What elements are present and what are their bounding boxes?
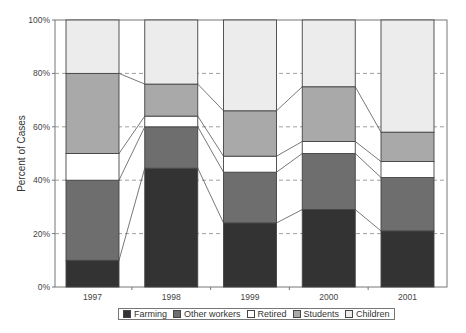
bar-segment-students [381, 132, 434, 161]
y-axis-title: Percent of Cases [16, 115, 27, 192]
legend-swatch-icon [293, 310, 301, 318]
x-tick-label: 1999 [241, 292, 260, 302]
legend-label: Retired [258, 309, 287, 319]
bar-segment-retired [224, 156, 277, 172]
bar-segment-farming [145, 168, 198, 287]
x-tick-label: 2001 [398, 292, 417, 302]
legend-swatch-icon [123, 310, 131, 318]
bar-segment-children [224, 20, 277, 111]
bar-segment-retired [66, 154, 119, 181]
x-tick-label: 1998 [162, 292, 181, 302]
y-tick-label: 0% [38, 282, 51, 292]
legend-item-farming: Farming [123, 309, 167, 319]
bar-segment-other-workers [66, 180, 119, 260]
bar-segment-retired [381, 162, 434, 178]
bar-segment-students [66, 73, 119, 153]
bar-1998 [145, 20, 198, 287]
legend-label: Students [304, 309, 340, 319]
legend-swatch-icon [345, 310, 353, 318]
bar-segment-students [224, 111, 277, 156]
bar-segment-students [302, 87, 355, 142]
legend-item-retired: Retired [247, 309, 287, 319]
bar-segment-children [381, 20, 434, 132]
legend-label: Children [356, 309, 390, 319]
bar-segment-farming [224, 223, 277, 287]
legend-label: Other workers [184, 309, 241, 319]
chart-legend: FarmingOther workersRetiredStudentsChild… [118, 308, 395, 320]
bar-segment-retired [145, 116, 198, 127]
bar-1999 [224, 20, 277, 287]
bar-segment-other-workers [224, 172, 277, 223]
y-tick-label: 40% [33, 175, 50, 185]
bar-segment-farming [381, 231, 434, 287]
bar-segment-other-workers [302, 154, 355, 210]
legend-swatch-icon [247, 310, 255, 318]
y-tick-label: 60% [33, 122, 50, 132]
bar-2000 [302, 20, 355, 287]
y-tick-label: 80% [33, 68, 50, 78]
legend-item-other-workers: Other workers [173, 309, 241, 319]
bar-segment-retired [302, 141, 355, 153]
stacked-bar-chart: 0%20%40%60%80%100%Percent of Cases199719… [0, 0, 466, 333]
bar-segment-other-workers [145, 127, 198, 168]
bar-1997 [66, 20, 119, 287]
bar-segment-children [66, 20, 119, 73]
bar-segment-farming [302, 210, 355, 287]
legend-label: Farming [134, 309, 167, 319]
legend-swatch-icon [173, 310, 181, 318]
legend-item-students: Students [293, 309, 340, 319]
bar-segment-children [302, 20, 355, 87]
x-tick-label: 2000 [319, 292, 338, 302]
x-tick-label: 1997 [83, 292, 102, 302]
bar-segment-farming [66, 260, 119, 287]
bar-2001 [381, 20, 434, 287]
y-tick-label: 20% [33, 229, 50, 239]
bar-segment-children [145, 20, 198, 84]
y-tick-label: 100% [28, 15, 50, 25]
bar-segment-other-workers [381, 178, 434, 231]
bar-segment-students [145, 84, 198, 116]
legend-item-children: Children [345, 309, 390, 319]
